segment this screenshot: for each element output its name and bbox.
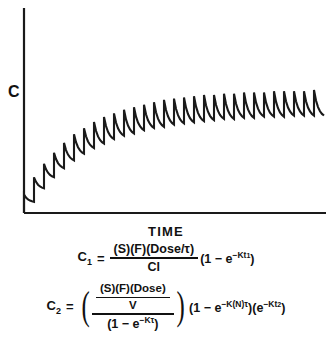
equation-1-fraction-bar [110, 257, 199, 259]
equation-2-inner-fraction-bar [96, 297, 170, 298]
sawtooth-curve [24, 90, 324, 213]
equation-2: C2 = ( (S)(F)(Dose) V (1 − e−Kτ) ) (1 − … [0, 282, 332, 331]
equation-1-fraction: (S)(F)(Dose/τ) Cl [110, 242, 199, 274]
equation-1-tail: (1 − e−Kt1) [200, 250, 254, 266]
equation-1-lhs: C1 [78, 249, 92, 267]
equation-1: C1 = (S)(F)(Dose/τ) Cl (1 − e−Kt1) [0, 242, 332, 274]
right-parenthesis: ) [176, 288, 184, 325]
equation-2-tail: (1 − e−K(N)τ)(e−Kt2) [189, 299, 285, 315]
x-axis-label: TIME [0, 224, 332, 239]
equation-1-equals: = [97, 251, 105, 266]
equation-2-outer-fraction: (S)(F)(Dose) V (1 − e−Kτ) [92, 282, 174, 331]
equation-2-inner-numerator: (S)(F)(Dose) [96, 282, 170, 295]
equation-2-outer-numerator: (S)(F)(Dose) V [92, 282, 174, 312]
equation-2-grouped-term: ( (S)(F)(Dose) V (1 − e−Kτ) ) [79, 282, 187, 331]
equation-2-inner-denominator: V [125, 299, 141, 312]
plot-svg [0, 0, 332, 222]
y-axis-label: C [8, 84, 20, 100]
equation-2-equals: = [66, 299, 74, 314]
equation-1-numerator: (S)(F)(Dose/τ) [110, 242, 199, 256]
left-parenthesis: ( [81, 288, 89, 325]
equations-block: C1 = (S)(F)(Dose/τ) Cl (1 − e−Kt1) C2 = … [0, 240, 332, 331]
equation-2-inner-fraction: (S)(F)(Dose) V [96, 282, 170, 312]
equation-2-lhs: C2 [47, 298, 61, 316]
equation-1-denominator: Cl [144, 260, 165, 274]
concentration-time-plot: C [0, 0, 332, 222]
equation-2-outer-fraction-bar [92, 313, 174, 315]
equation-2-outer-denominator: (1 − e−Kτ) [103, 316, 162, 332]
